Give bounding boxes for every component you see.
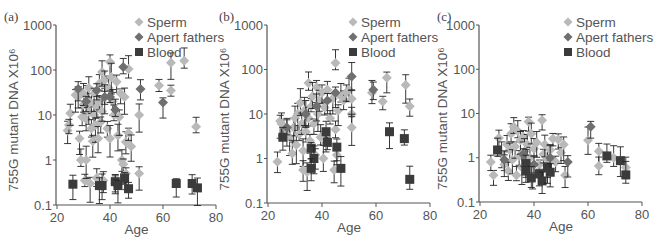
- x-tick-label: 20: [473, 207, 487, 222]
- data-point-square: [278, 133, 287, 142]
- data-point-diamond: [560, 170, 570, 180]
- y-tick-label: 1000: [446, 18, 475, 33]
- data-point-square: [400, 134, 409, 143]
- y-tick-label: 10: [38, 108, 52, 123]
- legend-label: Blood: [361, 45, 396, 60]
- y-tick-label: 10: [461, 106, 475, 121]
- panel-c: (c)0.1110100100020406080Age755G mutant D…: [435, 9, 654, 234]
- legend-square-icon: [564, 48, 572, 56]
- legend-label: Sperm: [147, 15, 187, 30]
- legend-label: Blood: [147, 45, 182, 60]
- x-tick-label: 80: [209, 210, 223, 225]
- data-point-square: [193, 183, 202, 192]
- y-tick-label: 100: [453, 62, 475, 77]
- panel-label: (a): [4, 9, 18, 24]
- figure: (a)0.1110100100020406080Age755G mutant D…: [0, 0, 658, 237]
- y-tick-label: 1: [45, 153, 52, 168]
- x-axis-label: Age: [549, 219, 573, 234]
- data-point-square: [405, 175, 414, 184]
- data-point-square: [307, 144, 316, 153]
- data-point-square: [332, 143, 341, 152]
- data-point-diamond: [65, 108, 75, 118]
- data-point-diamond: [586, 122, 596, 132]
- data-point-diamond: [134, 169, 144, 179]
- y-tick-label: 1: [256, 151, 263, 166]
- legend-label: Sperm: [361, 15, 401, 30]
- data-point-diamond: [526, 129, 536, 139]
- data-point-diamond: [537, 115, 547, 125]
- data-point-diamond: [291, 140, 301, 150]
- data-point-diamond: [81, 155, 91, 165]
- y-axis-label: 755G mutant DNA X10⁶: [6, 49, 21, 192]
- data-point-diamond: [382, 73, 392, 83]
- legend-label: Apert fathers: [147, 30, 225, 45]
- data-point-diamond: [166, 86, 176, 96]
- data-point-square: [323, 138, 332, 147]
- legend-diamond-icon: [349, 33, 358, 42]
- data-point-diamond: [331, 58, 341, 68]
- data-point-diamond: [287, 148, 297, 158]
- data-point-square: [98, 181, 107, 190]
- x-tick-label: 20: [50, 210, 64, 225]
- data-point-diamond: [405, 101, 415, 111]
- data-point-square: [120, 173, 129, 182]
- data-point-square: [113, 181, 122, 190]
- data-point-square: [493, 145, 502, 154]
- x-axis-label: Age: [337, 220, 361, 235]
- data-point-diamond: [134, 110, 144, 120]
- x-tick-label: 80: [423, 208, 437, 223]
- legend: SpermApert fathersBlood: [135, 15, 225, 60]
- data-point-diamond: [124, 128, 134, 138]
- legend-diamond-icon: [564, 18, 573, 27]
- legend-label: Apert fathers: [361, 30, 439, 45]
- legend-label: Apert fathers: [576, 30, 654, 45]
- legend-square-icon: [349, 48, 357, 56]
- legend-label: Blood: [576, 45, 611, 60]
- data-point-diamond: [75, 134, 85, 144]
- data-point-diamond: [594, 146, 604, 156]
- y-tick-label: 1000: [234, 18, 263, 33]
- data-point-diamond: [298, 146, 308, 156]
- x-tick-label: 40: [527, 207, 541, 222]
- data-point-square: [322, 127, 331, 136]
- data-point-square: [538, 176, 547, 185]
- data-point-diamond: [158, 97, 168, 107]
- legend-square-icon: [135, 48, 143, 56]
- data-point-square: [307, 164, 316, 173]
- data-point-square: [602, 151, 611, 160]
- data-point-square: [616, 156, 625, 165]
- x-axis-label: Age: [124, 222, 148, 237]
- figure-canvas: (a)0.1110100100020406080Age755G mutant D…: [0, 0, 658, 237]
- data-point-diamond: [524, 117, 534, 127]
- data-point-diamond: [105, 57, 115, 67]
- legend-diamond-icon: [564, 33, 573, 42]
- data-point-square: [621, 170, 630, 179]
- data-point-diamond: [347, 122, 357, 132]
- legend-label: Sperm: [576, 15, 616, 30]
- x-tick-label: 60: [581, 207, 595, 222]
- x-tick-label: 60: [156, 210, 170, 225]
- data-point-diamond: [378, 97, 388, 107]
- y-tick-label: 10: [249, 107, 263, 122]
- data-point-diamond: [154, 81, 164, 91]
- data-point-square: [172, 179, 181, 188]
- legend: SpermApert fathersBlood: [349, 15, 439, 60]
- data-point-diamond: [272, 157, 282, 167]
- data-point-diamond: [511, 170, 521, 180]
- x-tick-label: 40: [315, 208, 329, 223]
- legend-diamond-icon: [349, 18, 358, 27]
- y-tick-label: 1000: [23, 18, 52, 33]
- data-point-square: [385, 127, 394, 136]
- data-point-diamond: [102, 124, 112, 134]
- x-tick-label: 40: [103, 210, 117, 225]
- x-tick-label: 60: [369, 208, 383, 223]
- x-tick-label: 80: [635, 207, 649, 222]
- data-point-square: [546, 168, 555, 177]
- data-point-diamond: [135, 84, 145, 94]
- data-point-square: [68, 180, 77, 189]
- legend: SpermApert fathersBlood: [564, 15, 654, 60]
- legend-diamond-icon: [135, 18, 144, 27]
- data-point-diamond: [583, 135, 593, 145]
- data-point-diamond: [486, 157, 496, 167]
- data-point-diamond: [401, 80, 411, 90]
